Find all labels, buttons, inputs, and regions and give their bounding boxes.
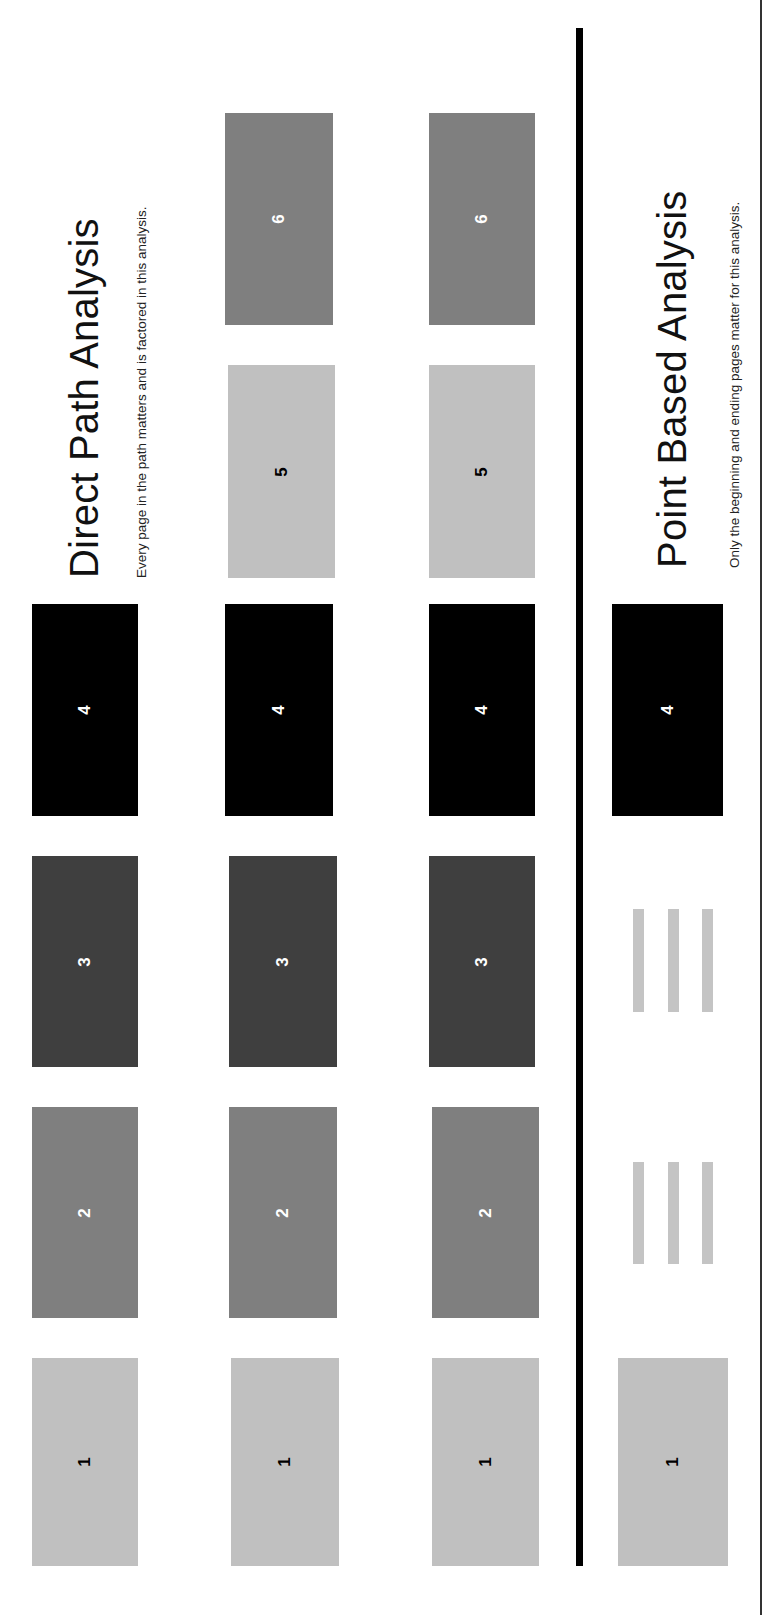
point-based-title: Point Based Analysis — [650, 190, 695, 568]
page-label: 4 — [269, 705, 289, 714]
page-label: 2 — [273, 1208, 293, 1217]
direct-path-subtitle: Every page in the path matters and is fa… — [134, 207, 149, 578]
section-divider — [576, 28, 583, 1566]
page-label: 5 — [272, 467, 292, 476]
skipped-page-bar — [702, 909, 713, 1012]
row3-page-2: 2 — [432, 1107, 539, 1318]
row2-page-3: 3 — [229, 856, 337, 1067]
page-label: 3 — [472, 957, 492, 966]
page-label: 4 — [75, 705, 95, 714]
page-label: 1 — [75, 1457, 95, 1466]
skipped-page-bar — [702, 1162, 713, 1264]
point-based-subtitle: Only the beginning and ending pages matt… — [727, 202, 742, 568]
point-page-end: 4 — [612, 604, 723, 816]
page-label: 4 — [658, 705, 678, 714]
row1-page-3: 3 — [32, 856, 138, 1067]
page-label: 2 — [75, 1208, 95, 1217]
point-page-start: 1 — [618, 1358, 728, 1566]
row2-page-6: 6 — [225, 113, 333, 325]
row1-page-4: 4 — [32, 604, 138, 816]
direct-path-title: Direct Path Analysis — [62, 218, 107, 578]
page-label: 6 — [269, 214, 289, 223]
row2-page-5: 5 — [228, 365, 335, 578]
page-label: 6 — [472, 214, 492, 223]
skipped-page-bar — [668, 909, 679, 1012]
row2-page-1: 1 — [231, 1358, 339, 1566]
row2-page-4: 4 — [225, 604, 333, 816]
skipped-page-bar — [633, 909, 644, 1012]
page-label: 3 — [273, 957, 293, 966]
page-label: 2 — [476, 1208, 496, 1217]
page-label: 1 — [663, 1457, 683, 1466]
row1-page-2: 2 — [32, 1107, 138, 1318]
skipped-page-bar — [668, 1162, 679, 1264]
page-label: 3 — [75, 957, 95, 966]
row3-page-1: 1 — [432, 1358, 539, 1566]
row1-page-1: 1 — [32, 1358, 138, 1566]
row3-page-5: 5 — [429, 365, 535, 578]
row2-page-2: 2 — [229, 1107, 337, 1318]
page-label: 1 — [275, 1457, 295, 1466]
frame-border-right — [760, 0, 762, 1615]
skipped-page-bar — [633, 1162, 644, 1264]
page-label: 4 — [472, 705, 492, 714]
page-label: 1 — [476, 1457, 496, 1466]
page-label: 5 — [472, 467, 492, 476]
row3-page-4: 4 — [429, 604, 535, 816]
row3-page-3: 3 — [429, 856, 535, 1067]
row3-page-6: 6 — [429, 113, 535, 325]
